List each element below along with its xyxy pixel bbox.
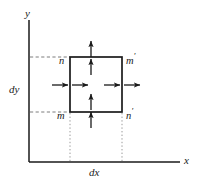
y-axis-label: y bbox=[25, 8, 30, 19]
corner-label-n-prime-bottom-right: n′ bbox=[126, 107, 133, 121]
corner-label-m-bottom-left: m bbox=[57, 107, 65, 121]
x-axis-label: x bbox=[184, 155, 189, 166]
corner-label-m-bottom-left-text: m bbox=[57, 110, 65, 121]
diagram-canvas: y x dy dx n m′ m n′ bbox=[0, 0, 203, 188]
dy-label: dy bbox=[9, 84, 19, 95]
corner-label-n-top-left-text: n bbox=[59, 55, 64, 66]
corner-label-n-top-left: n bbox=[59, 52, 64, 66]
corner-label-m-prime-top-right-text: m bbox=[126, 55, 134, 66]
dx-label: dx bbox=[89, 167, 99, 178]
diagram-vector-layer bbox=[0, 0, 203, 188]
corner-label-n-prime-bottom-right-prime: ′ bbox=[131, 106, 133, 116]
corner-label-m-prime-top-right: m′ bbox=[126, 52, 136, 66]
corner-label-m-prime-top-right-prime: ′ bbox=[134, 51, 136, 61]
